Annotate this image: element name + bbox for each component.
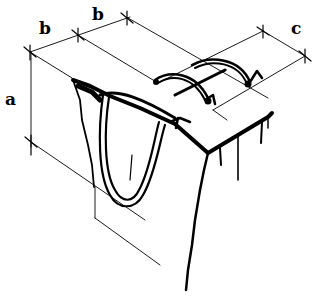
dimension-label-a: a	[5, 91, 16, 108]
diagram-figure: b b a c	[0, 0, 319, 297]
ledge-outline	[73, 80, 272, 290]
ledge-sketch	[0, 0, 319, 297]
dimension-lines	[30, 17, 305, 265]
dimension-label-b-first: b	[39, 20, 51, 37]
dimension-ticks	[24, 11, 311, 155]
anchors	[154, 60, 262, 128]
dimension-label-b-second: b	[92, 6, 104, 23]
rope-loop	[100, 93, 175, 206]
dimension-label-c: c	[291, 20, 301, 37]
